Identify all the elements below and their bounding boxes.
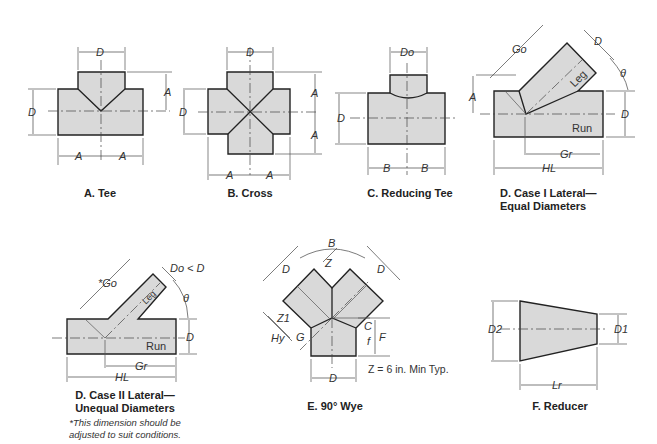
lateral1-theta-label: θ: [620, 67, 626, 79]
lateral1-D-top-label: D: [594, 35, 602, 47]
reducing-tee-D-label: D: [337, 112, 345, 124]
footnote-line2: adjusted to suit conditions.: [60, 429, 190, 441]
tee-A-label: A: [163, 86, 171, 98]
wye-Z1-label: Z1: [276, 312, 290, 324]
lateral1-caption-line2: Equal Diameters: [500, 200, 620, 213]
reducing-tee-Do-label: Do: [400, 46, 414, 58]
lateral1-caption: D. Case I Lateral— Equal Diameters: [500, 187, 620, 213]
tee-D-left-label: D: [28, 106, 36, 118]
reducer-figure: D2 D1 Lr: [488, 301, 628, 391]
tee-caption: A. Tee: [60, 187, 140, 200]
cross-A-left-label: A: [225, 169, 233, 181]
reducer-D2-label: D2: [488, 323, 502, 335]
wye-D-bottom-label: D: [329, 372, 337, 384]
wye-Z-label: Z: [324, 257, 333, 269]
wye-D-right-label: D: [377, 263, 385, 275]
wye-G-label: G: [296, 331, 305, 343]
lateral2-DoD-label: Do < D: [170, 262, 205, 274]
lateral2-Gr-label: Gr: [135, 360, 149, 372]
lateral1-Go-label: Go: [512, 43, 527, 55]
reducing-tee-B-right-label: B: [421, 162, 428, 174]
wye-F-label: F: [379, 331, 387, 343]
wye-C-label: C: [364, 320, 372, 332]
cross-A-right-label: A: [265, 169, 273, 181]
wye-f-label: f: [367, 335, 371, 347]
lateral1-caption-line1: D. Case I Lateral—: [500, 187, 620, 200]
lateral1-Gr-label: Gr: [560, 148, 574, 160]
lateral-case1-figure: Go D θ D A D Leg Run Gr HL: [468, 25, 635, 175]
wye-note: Z = 6 in. Min Typ.: [368, 363, 449, 375]
lateral1-run-label: Run: [572, 122, 592, 134]
cross-caption: B. Cross: [210, 187, 290, 200]
tee-A-left-label: A: [74, 150, 82, 162]
reducer-D1-label: D1: [614, 323, 628, 335]
reducer-caption: F. Reducer: [510, 400, 610, 413]
tee-D-label: D: [96, 46, 104, 58]
wye-Hy-label: Hy: [271, 332, 286, 344]
lateral2-caption-line1: D. Case II Lateral—: [60, 389, 190, 402]
lateral-case2-figure: *Go Do < D θ D Leg Run Gr HL: [52, 259, 205, 383]
cross-A-bottom-label: A: [310, 129, 318, 141]
lateral2-Go-label: *Go: [98, 277, 117, 289]
lateral1-D-right-label: D: [621, 108, 629, 120]
cross-A-top-label: A: [310, 87, 318, 99]
cross-D-left-label: D: [179, 106, 187, 118]
lateral2-footnote: *This dimension should be adjusted to su…: [60, 417, 190, 441]
wye-caption: E. 90° Wye: [290, 400, 380, 413]
lateral2-run-label: Run: [146, 340, 166, 352]
cross-D-label: D: [246, 46, 254, 58]
lateral2-caption-line2: Unequal Diameters: [60, 402, 190, 415]
tee-A-right-label: A: [118, 150, 126, 162]
reducing-tee-caption: C. Reducing Tee: [355, 187, 465, 200]
pipe-fittings-diagram: D A D A A D A A D A A Do: [0, 0, 657, 444]
lateral2-caption: D. Case II Lateral— Unequal Diameters: [60, 389, 190, 415]
wye-D-left-label: D: [282, 263, 290, 275]
lateral2-HL-label: HL: [115, 371, 129, 383]
footnote-line1: *This dimension should be: [60, 417, 190, 429]
wye-figure: B D D Z Z1 Hy G C f F D Z = 6 in. Min Ty…: [263, 237, 449, 384]
lateral1-A-label-text: A: [468, 91, 476, 103]
reducer-Lr-label: Lr: [552, 379, 563, 391]
cross-figure: D A A D A A: [179, 46, 322, 181]
reducing-tee-B-left-label: B: [383, 162, 390, 174]
tee-figure: D A D A A: [28, 46, 172, 165]
wye-B-label: B: [328, 237, 335, 249]
reducing-tee-figure: Do D B B: [335, 46, 455, 175]
lateral1-HL-label: HL: [542, 162, 556, 174]
lateral2-theta-label: θ: [183, 292, 189, 304]
lateral2-D-label: D: [186, 331, 194, 343]
